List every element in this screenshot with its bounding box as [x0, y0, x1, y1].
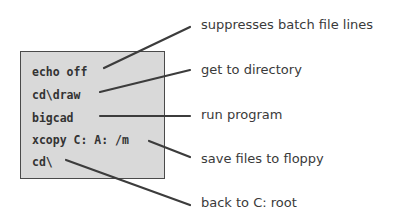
annotation-run-program: run program: [201, 107, 282, 123]
leader-lines: [0, 0, 393, 222]
leader-line-cd-draw: [100, 70, 190, 92]
leader-line-echo-off: [104, 27, 190, 68]
annotation-save-files-to-floppy: save files to floppy: [201, 151, 324, 167]
annotation-back-to-c-root: back to C: root: [201, 195, 297, 211]
annotation-suppresses-batch-file-lines: suppresses batch file lines: [201, 17, 373, 33]
leader-line-xcopy: [149, 141, 190, 157]
leader-line-cd-root: [66, 160, 190, 205]
annotation-get-to-directory: get to directory: [201, 62, 302, 78]
